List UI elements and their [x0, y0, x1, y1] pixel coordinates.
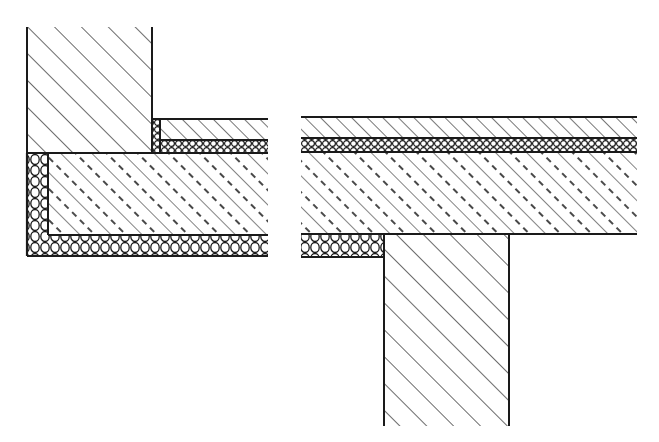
impact-insulation-layer [301, 138, 637, 152]
bottom-insulation [301, 234, 384, 257]
edge-insulation-strip [152, 119, 160, 153]
perimeter-insulation [27, 153, 48, 256]
concrete-slab [27, 153, 268, 235]
concrete-slab [301, 152, 637, 234]
supporting-wall [384, 234, 509, 426]
impact-insulation-layer [160, 140, 268, 153]
corner-detail-panel [27, 27, 268, 256]
section-drawing [0, 0, 659, 442]
screed-layer [301, 117, 637, 138]
masonry-wall [27, 27, 152, 153]
column-detail-panel [301, 117, 637, 426]
screed-layer [152, 119, 268, 140]
